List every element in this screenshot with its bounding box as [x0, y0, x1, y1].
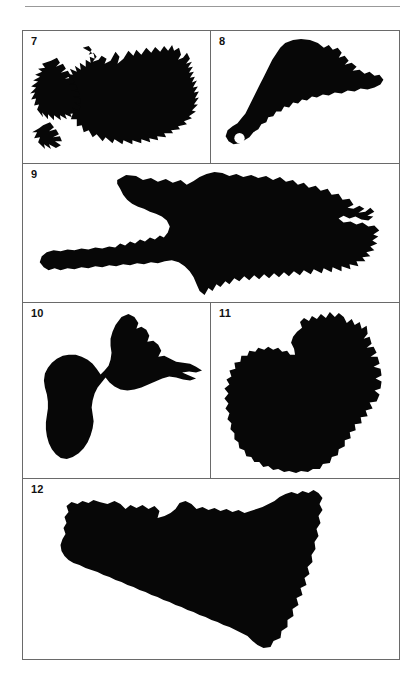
figure-number-8: 8	[219, 36, 225, 47]
figure-row-3: 10 11	[23, 303, 399, 479]
figure-number-11: 11	[219, 308, 231, 319]
figure-number-10: 10	[31, 308, 44, 319]
borneo-silhouette	[211, 303, 398, 478]
guadeloupe-silhouette	[23, 303, 210, 478]
figure-cell-12[interactable]: 12	[23, 479, 399, 658]
figure-cell-11[interactable]: 11	[211, 303, 398, 478]
figure-row-4: 12	[23, 479, 399, 658]
sicily-silhouette	[23, 479, 399, 658]
figure-cell-8[interactable]: 8	[211, 31, 398, 163]
figure-number-12: 12	[31, 484, 44, 495]
figure-number-9: 9	[31, 169, 37, 180]
figure-cell-7[interactable]: 7	[23, 31, 211, 163]
figure-grid: 7 8 9	[22, 30, 400, 660]
iceland-silhouette	[23, 31, 210, 163]
figure-cell-10[interactable]: 10	[23, 303, 211, 478]
trinidad-silhouette	[211, 31, 398, 163]
figure-cell-9[interactable]: 9	[23, 164, 399, 302]
header-rule	[25, 6, 400, 7]
hispaniola-silhouette	[23, 164, 399, 302]
running-head: ISLAND OUTLINES	[0, 0, 420, 3]
figure-row-2: 9	[23, 164, 399, 303]
figure-row-1: 7 8	[23, 31, 399, 164]
figure-number-7: 7	[31, 36, 37, 47]
